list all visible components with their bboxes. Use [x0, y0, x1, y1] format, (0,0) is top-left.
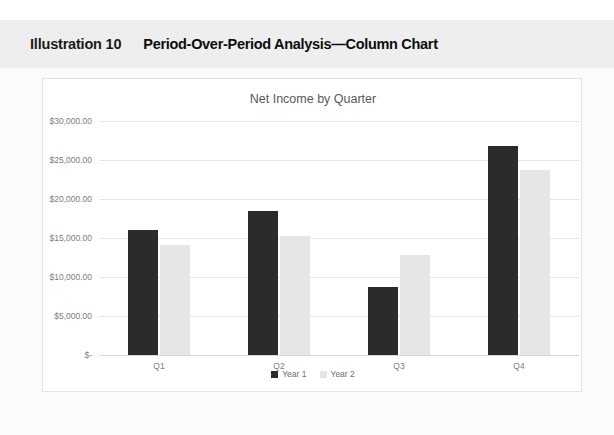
y-axis-tick-label: $5,000.00: [54, 311, 92, 321]
legend-item-year-1[interactable]: Year 1: [271, 369, 306, 379]
y-axis-tick-label: $10,000.00: [49, 272, 92, 282]
bar-q3-year-2[interactable]: [400, 255, 430, 355]
bar-group-q1: Q1: [99, 121, 219, 355]
illustration-header-band: Illustration 10 Period-Over-Period Analy…: [0, 20, 614, 68]
legend-item-year-2[interactable]: Year 2: [320, 369, 355, 379]
chart-card: Net Income by Quarter $30,000.00$25,000.…: [42, 78, 582, 392]
bar-q4-year-1[interactable]: [488, 146, 518, 355]
chart-legend: Year 1Year 2: [43, 369, 583, 379]
y-axis-tick-label: $20,000.00: [49, 194, 92, 204]
bar-group-q2: Q2: [219, 121, 339, 355]
y-axis-tick-label: $25,000.00: [49, 155, 92, 165]
bar-q1-year-1[interactable]: [128, 230, 158, 355]
bar-q4-year-2[interactable]: [520, 170, 550, 355]
illustration-number-label: Illustration 10: [30, 36, 121, 52]
bar-q2-year-2[interactable]: [280, 236, 310, 355]
chart-title: Net Income by Quarter: [43, 92, 583, 106]
illustration-title: Period-Over-Period Analysis—Column Chart: [143, 36, 437, 52]
y-axis-tick-label: $-: [84, 350, 92, 360]
bar-q2-year-1[interactable]: [248, 211, 278, 355]
legend-swatch-icon: [271, 371, 278, 378]
y-axis-tick-label: $15,000.00: [49, 233, 92, 243]
bar-group-q3: Q3: [339, 121, 459, 355]
chart-plot-area: $30,000.00$25,000.00$20,000.00$15,000.00…: [99, 121, 579, 355]
bar-group-q4: Q4: [459, 121, 579, 355]
bar-q1-year-2[interactable]: [160, 245, 190, 355]
legend-swatch-icon: [320, 371, 327, 378]
y-axis-tick-label: $30,000.00: [49, 116, 92, 126]
gridline: [99, 355, 579, 356]
bar-q3-year-1[interactable]: [368, 287, 398, 355]
legend-label: Year 1: [282, 369, 306, 379]
legend-label: Year 2: [331, 369, 355, 379]
